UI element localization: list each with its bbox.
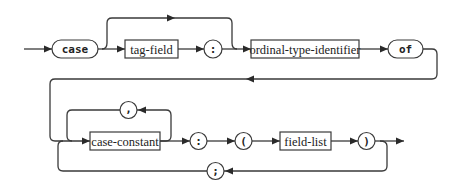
terminal-case: case bbox=[52, 40, 98, 58]
connector-fieldlist-to-closeparen bbox=[331, 138, 358, 145]
comma-label: , bbox=[125, 103, 132, 116]
ordinal-type-identifier-label: ordinal-type-identifier bbox=[249, 43, 361, 57]
nonterminal-field-list: field-list bbox=[280, 132, 331, 150]
close-paren-label: ) bbox=[363, 135, 370, 148]
semicolon-label: ; bbox=[212, 165, 219, 178]
terminal-comma: , bbox=[120, 102, 137, 119]
terminal-tag-colon: : bbox=[204, 40, 222, 58]
wrap-connector bbox=[50, 49, 437, 145]
nonterminal-case-constant: case-constant bbox=[90, 132, 160, 150]
case-constant-label: case-constant bbox=[91, 135, 159, 149]
syntax-diagram: case tag-field : ordinal-type-identifier bbox=[0, 0, 465, 192]
connector-ordinal-to-of bbox=[359, 46, 388, 53]
connector-colon-to-openparen bbox=[207, 138, 235, 145]
connector-caseconstant-to-colon bbox=[160, 138, 190, 145]
field-list-label: field-list bbox=[284, 135, 327, 149]
tag-colon-label: : bbox=[210, 43, 217, 56]
connector-tagfield-to-colon bbox=[178, 46, 204, 53]
open-paren-label: ( bbox=[240, 135, 247, 148]
label-colon-label: : bbox=[195, 135, 202, 148]
nonterminal-tag-field: tag-field bbox=[125, 40, 178, 58]
tag-field-label: tag-field bbox=[130, 43, 173, 57]
terminal-case-label: case bbox=[62, 43, 89, 56]
terminal-semicolon: ; bbox=[207, 163, 224, 180]
terminal-of-label: of bbox=[399, 43, 412, 56]
exit-connector bbox=[375, 138, 404, 145]
entry-connector bbox=[24, 46, 52, 53]
terminal-of: of bbox=[388, 40, 423, 58]
terminal-open-paren: ( bbox=[235, 133, 252, 150]
connector-openparen-to-fieldlist bbox=[252, 138, 280, 145]
connector-colon-to-ordinal bbox=[222, 46, 251, 53]
terminal-label-colon: : bbox=[190, 133, 207, 150]
nonterminal-ordinal-type-identifier: ordinal-type-identifier bbox=[249, 40, 361, 58]
terminal-close-paren: ) bbox=[358, 133, 375, 150]
